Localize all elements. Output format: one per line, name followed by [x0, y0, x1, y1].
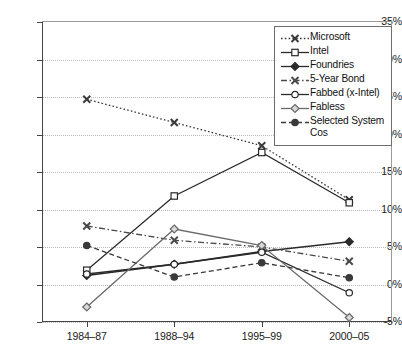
legend-item-label: Fabless	[310, 101, 345, 113]
legend-item-label: Selected System Cos	[310, 115, 384, 138]
legend-item-label: Foundries	[310, 59, 354, 71]
legend-item-selected-system-cos[interactable]: Selected System Cos	[280, 115, 387, 139]
legend-item-microsoft[interactable]: Microsoft	[280, 31, 387, 44]
legend-item-label: Intel	[310, 45, 329, 57]
legend-marker-icon	[280, 59, 310, 72]
legend-item-label: 5-Year Bond	[310, 73, 365, 85]
legend-item-foundries[interactable]: Foundries	[280, 59, 387, 72]
legend-item-fabbed-x-intel[interactable]: Fabbed (x-Intel)	[280, 87, 387, 100]
x-axis-label: 1988–94	[154, 330, 194, 342]
chart-legend: MicrosoftIntelFoundries5-Year BondFabbed…	[274, 26, 392, 146]
gridline	[42, 322, 392, 323]
x-axis-label: 1995–99	[242, 330, 282, 342]
legend-item-5-year-bond[interactable]: 5-Year Bond	[280, 73, 387, 86]
legend-item-label: Fabbed (x-Intel)	[310, 87, 380, 99]
x-axis-label: 2000–05	[329, 330, 369, 342]
chart-container: 35%30%25%20%15%10%5%0%-5% 1984–871988–94…	[0, 0, 402, 356]
legend-marker-icon	[280, 101, 310, 114]
legend-marker-icon	[280, 87, 310, 100]
legend-marker-icon	[280, 45, 310, 58]
legend-marker-icon	[280, 115, 310, 128]
x-axis-tick	[174, 322, 175, 327]
x-axis-tick	[349, 322, 350, 327]
legend-marker-icon	[280, 31, 310, 44]
legend-item-fabless[interactable]: Fabless	[280, 101, 387, 114]
x-axis-tick	[262, 322, 263, 327]
legend-item-label: Microsoft	[310, 31, 350, 43]
x-axis-label: 1984–87	[67, 330, 107, 342]
legend-item-intel[interactable]: Intel	[280, 45, 387, 58]
legend-marker-icon	[280, 73, 310, 86]
x-axis-tick	[87, 322, 88, 327]
y-axis-tick	[37, 322, 42, 323]
